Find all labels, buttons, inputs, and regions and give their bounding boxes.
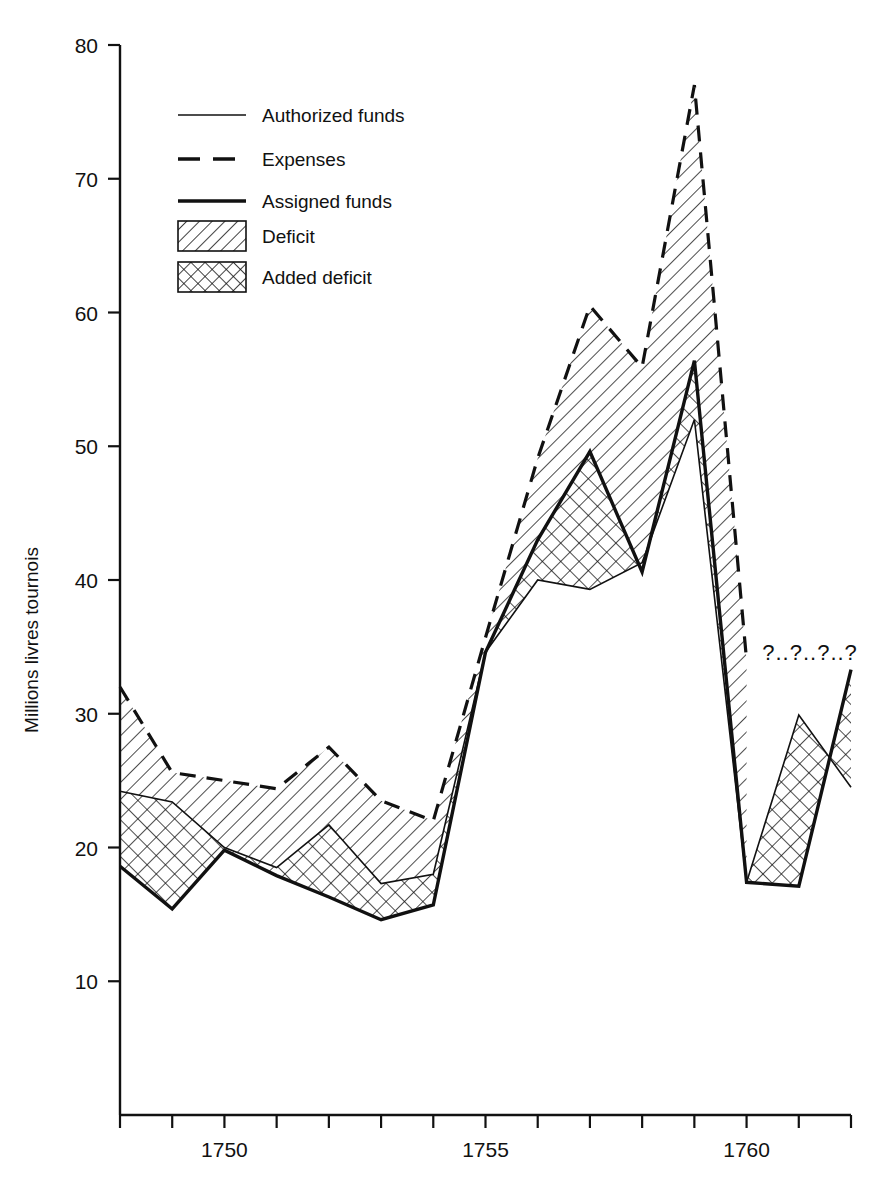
- y-axis-tick-label: 70: [75, 168, 98, 191]
- y-axis-tick-label: 50: [75, 435, 98, 458]
- legend-label-expenses: Expenses: [262, 149, 345, 170]
- x-axis-tick-label: 1755: [462, 1138, 509, 1161]
- legend-label-added-deficit: Added deficit: [262, 267, 373, 288]
- y-axis-tick-label: 20: [75, 837, 98, 860]
- x-axis-tick-label: 1760: [723, 1138, 770, 1161]
- chart-figure: 1020304050607080 175017551760 ?..?..?..?…: [0, 0, 886, 1186]
- chart-annotations: ?..?..?..?: [762, 640, 858, 665]
- y-axis-tick-label: 10: [75, 970, 98, 993]
- legend-swatch-added-deficit: [178, 262, 246, 292]
- legend-item-expenses: Expenses: [178, 149, 345, 170]
- chart-legend: Authorized funds Expenses Assigned funds…: [178, 105, 405, 292]
- x-axis-tick-labels: 175017551760: [201, 1138, 770, 1161]
- legend-label-authorized-funds: Authorized funds: [262, 105, 405, 126]
- legend-item-added-deficit: Added deficit: [178, 262, 373, 292]
- legend-label-assigned-funds: Assigned funds: [262, 191, 392, 212]
- legend-item-deficit: Deficit: [178, 221, 316, 251]
- y-axis-title: Millions livres tournois: [21, 547, 42, 733]
- chart-canvas: 1020304050607080 175017551760 ?..?..?..?…: [0, 0, 886, 1186]
- legend-label-deficit: Deficit: [262, 226, 316, 247]
- band-deficit: [120, 85, 747, 884]
- chart-annotation-uncertainty: ?..?..?..?: [762, 640, 858, 665]
- y-axis-tick-label: 40: [75, 569, 98, 592]
- y-axis-ticks: [108, 45, 120, 981]
- y-axis-tick-label: 80: [75, 34, 98, 57]
- y-axis-tick-label: 60: [75, 302, 98, 325]
- legend-swatch-deficit: [178, 221, 246, 251]
- x-axis-ticks: [120, 1115, 851, 1128]
- y-axis-tick-label: 30: [75, 703, 98, 726]
- legend-item-assigned-funds: Assigned funds: [178, 191, 392, 212]
- y-axis-tick-labels: 1020304050607080: [75, 34, 98, 993]
- data-bands: [120, 85, 851, 920]
- legend-item-authorized-funds: Authorized funds: [178, 105, 405, 126]
- x-axis-tick-label: 1750: [201, 1138, 248, 1161]
